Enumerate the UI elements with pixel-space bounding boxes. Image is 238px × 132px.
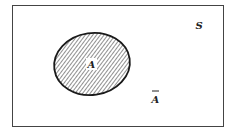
venn-diagram: A S A [0, 0, 238, 132]
complement-label: A [151, 94, 160, 105]
universe-label: S [195, 20, 202, 31]
set-a-label: A [87, 59, 96, 70]
